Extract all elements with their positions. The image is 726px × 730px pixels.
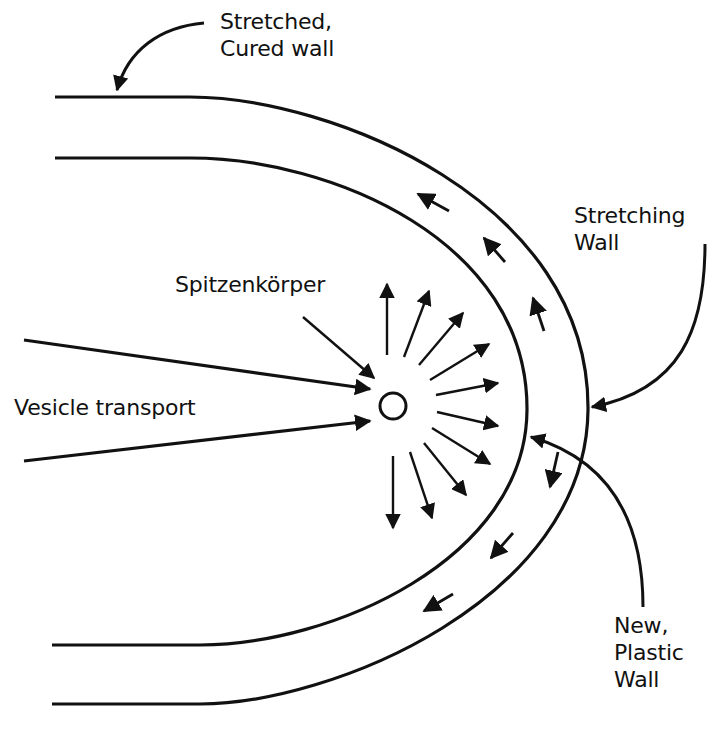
new-plastic-wall-label: New, Plastic Wall bbox=[614, 612, 684, 693]
stretching-line-2: Wall bbox=[574, 229, 685, 256]
vesicle-transport-text: Vesicle transport bbox=[14, 394, 195, 421]
stretching-line-1: Stretching bbox=[574, 202, 685, 229]
spitzenkorper-label: Spitzenkörper bbox=[175, 271, 325, 298]
radiating-arrow bbox=[410, 452, 432, 518]
new-plastic-line-1: New, bbox=[614, 612, 684, 639]
stretching-wall-label: Stretching Wall bbox=[574, 202, 685, 256]
stretching-wall-pointer bbox=[592, 244, 705, 407]
wall-flow-arrow bbox=[533, 298, 544, 331]
radiating-arrow bbox=[436, 383, 498, 395]
wall-flow-arrow bbox=[424, 594, 453, 611]
label-pointers bbox=[117, 23, 705, 607]
new-plastic-pointer bbox=[531, 437, 643, 607]
radiating-arrow bbox=[404, 291, 429, 357]
stretched-cured-line-2: Cured wall bbox=[220, 35, 334, 62]
radiating-arrow bbox=[430, 344, 489, 380]
radiating-arrow bbox=[424, 443, 466, 495]
radiating-arrow bbox=[437, 412, 498, 426]
new-plastic-line-2: Plastic bbox=[614, 639, 684, 666]
stretched-cured-wall-label: Stretched, Cured wall bbox=[220, 8, 334, 62]
stretched-cured-line-1: Stretched, bbox=[220, 8, 334, 35]
spitzenkorper-text: Spitzenkörper bbox=[175, 271, 325, 298]
radiating-arrow bbox=[419, 313, 463, 365]
radiating-arrow bbox=[432, 428, 490, 464]
new-plastic-line-3: Wall bbox=[614, 666, 684, 693]
vesicle-transport-label: Vesicle transport bbox=[14, 394, 195, 421]
spitzenkorper-circle bbox=[380, 393, 406, 419]
wall-flow-arrow bbox=[484, 238, 505, 262]
wall-flow-arrow bbox=[418, 194, 449, 211]
vesicle-arrow-upper bbox=[24, 340, 370, 389]
radiating-arrows bbox=[387, 284, 498, 528]
wall-flow-arrow bbox=[491, 533, 513, 558]
spitzenkorper-pointer-arrow bbox=[303, 317, 374, 378]
wall-flow-arrow bbox=[550, 452, 558, 487]
vesicle-arrow-lower bbox=[24, 421, 370, 461]
stretched-cured-pointer bbox=[117, 23, 204, 90]
